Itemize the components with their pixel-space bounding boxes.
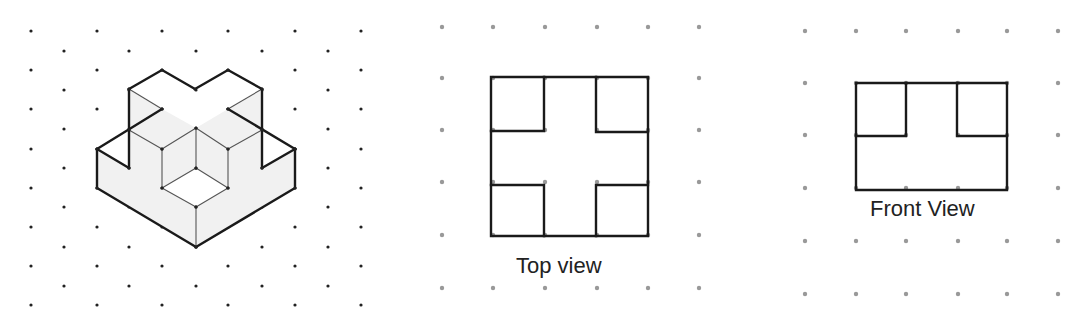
grid-dot	[95, 29, 98, 32]
grid-dot	[956, 292, 960, 296]
vertex-dot	[160, 107, 163, 110]
vertex-dot	[260, 128, 263, 131]
grid-dot	[293, 303, 296, 306]
grid-dot	[326, 245, 329, 248]
vertex-dot	[226, 147, 229, 150]
grid-dot	[956, 29, 960, 33]
grid-dot	[326, 127, 329, 130]
grid-dot	[904, 239, 908, 243]
grid-dot	[95, 107, 98, 110]
grid-dot	[854, 239, 858, 243]
grid-dot	[29, 264, 32, 267]
top-view-dot-grid	[440, 25, 701, 290]
vertex-dot	[260, 166, 263, 169]
vertex-dot	[226, 186, 229, 189]
view-edge	[856, 83, 906, 136]
grid-dot	[359, 68, 362, 71]
vertex-dot	[160, 68, 163, 71]
grid-dot	[293, 68, 296, 71]
grid-dot	[1056, 239, 1060, 243]
vertex-dot	[293, 147, 296, 150]
grid-dot	[293, 107, 296, 110]
grid-dot	[359, 303, 362, 306]
top-view-outline	[491, 77, 648, 236]
grid-dot	[697, 128, 701, 132]
vertex-dot	[127, 87, 130, 90]
grid-dot	[62, 49, 65, 52]
vertex-dot	[194, 126, 197, 129]
grid-dot	[1005, 29, 1009, 33]
grid-dot	[226, 29, 229, 32]
front-view-label: Front View	[870, 198, 975, 220]
grid-dot	[697, 233, 701, 237]
grid-dot	[803, 81, 807, 85]
grid-dot	[62, 166, 65, 169]
grid-dot	[226, 264, 229, 267]
grid-dot	[260, 49, 263, 52]
grid-dot	[854, 292, 858, 296]
grid-dot	[359, 186, 362, 189]
grid-dot	[359, 264, 362, 267]
vertex-dot	[194, 205, 197, 208]
grid-dot	[29, 303, 32, 306]
grid-dot	[293, 225, 296, 228]
grid-dot	[326, 49, 329, 52]
front-view-outline	[856, 83, 1007, 190]
grid-dot	[646, 286, 650, 290]
vertex-dot	[194, 245, 197, 248]
grid-dot	[1056, 81, 1060, 85]
vertex-dot	[160, 186, 163, 189]
grid-dot	[543, 25, 547, 29]
grid-dot	[326, 205, 329, 208]
grid-dot	[29, 29, 32, 32]
grid-dot	[359, 107, 362, 110]
grid-dot	[62, 284, 65, 287]
grid-dot	[854, 29, 858, 33]
grid-dot	[359, 29, 362, 32]
vertex-dot	[226, 68, 229, 71]
grid-dot	[440, 286, 444, 290]
grid-dot	[904, 292, 908, 296]
grid-dot	[226, 303, 229, 306]
view-edge	[957, 83, 1007, 136]
grid-dot	[326, 284, 329, 287]
grid-dot	[127, 245, 130, 248]
top-view-label: Top view	[516, 255, 602, 277]
grid-dot	[1056, 292, 1060, 296]
grid-dot	[697, 76, 701, 80]
view-edge	[596, 185, 648, 236]
grid-dot	[491, 25, 495, 29]
grid-dot	[440, 180, 444, 184]
view-edge	[596, 77, 648, 132]
grid-dot	[904, 29, 908, 33]
grid-dot	[29, 147, 32, 150]
grid-dot	[127, 49, 130, 52]
grid-dot	[440, 76, 444, 80]
grid-dot	[803, 186, 807, 190]
grid-dot	[803, 29, 807, 33]
grid-dot	[62, 245, 65, 248]
grid-dot	[29, 186, 32, 189]
vertex-dot	[260, 87, 263, 90]
grid-dot	[62, 205, 65, 208]
vertex-dot	[160, 147, 163, 150]
grid-dot	[95, 264, 98, 267]
view-edge	[491, 77, 648, 236]
grid-dot	[194, 49, 197, 52]
grid-dot	[127, 284, 130, 287]
grid-dot	[491, 286, 495, 290]
grid-dot	[95, 303, 98, 306]
grid-dot	[95, 225, 98, 228]
grid-dot	[440, 233, 444, 237]
grid-dot	[260, 245, 263, 248]
grid-dot	[803, 239, 807, 243]
grid-dot	[359, 147, 362, 150]
grid-dot	[543, 286, 547, 290]
grid-dot	[293, 264, 296, 267]
grid-dot	[956, 239, 960, 243]
grid-dot	[260, 284, 263, 287]
grid-dot	[359, 225, 362, 228]
grid-dot	[29, 225, 32, 228]
grid-dot	[194, 284, 197, 287]
grid-dot	[1056, 186, 1060, 190]
